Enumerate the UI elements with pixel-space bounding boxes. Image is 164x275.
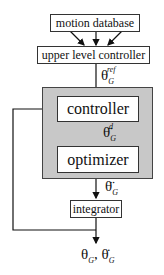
- integrator-box: integrator: [70, 200, 122, 218]
- motion-database-label: motion database: [56, 16, 134, 31]
- optimizer-box: optimizer: [57, 146, 139, 173]
- controller-box: controller: [57, 96, 139, 122]
- theta-ref-label: θGref: [101, 67, 123, 86]
- motion-database-box: motion database: [50, 14, 140, 32]
- upper-level-controller-label: upper level controller: [42, 48, 145, 63]
- upper-level-controller-box: upper level controller: [37, 46, 150, 64]
- optimizer-label: optimizer: [67, 151, 128, 169]
- output-label: θG, θ̇G: [81, 246, 114, 265]
- integrator-label: integrator: [73, 202, 120, 217]
- theta-ddot-d-label: θ̈Gd: [103, 124, 120, 143]
- theta-ddot-label: θ̈G: [105, 178, 118, 197]
- controller-label: controller: [67, 100, 129, 118]
